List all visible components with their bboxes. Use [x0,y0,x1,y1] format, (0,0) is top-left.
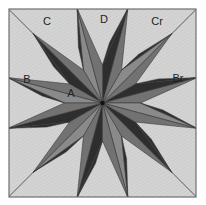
piece-label-a: A [67,87,75,99]
piece-label-cr: Cr [151,15,163,27]
piece-label-c: C [43,15,51,27]
center-point [100,101,104,105]
piece-label-br: Br [173,72,184,84]
piece-label-d: D [100,13,108,25]
piece-label-b: B [23,73,30,85]
quilt-star-diagram: CDCrBBrA [0,0,206,205]
